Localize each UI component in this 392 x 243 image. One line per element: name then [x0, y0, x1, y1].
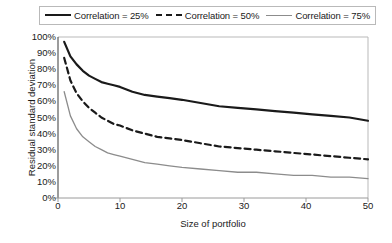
x-tick-label: 20: [167, 201, 197, 211]
x-tick-label: 10: [105, 201, 135, 211]
x-tick-label: 50: [353, 201, 383, 211]
x-axis-tick-labels: 01020304050: [0, 0, 392, 243]
x-axis-title: Size of portfolio: [58, 218, 368, 229]
x-tick-label: 30: [229, 201, 259, 211]
x-tick-label: 0: [43, 201, 73, 211]
residual-standard-deviation-chart: Correlation = 25% Correlation = 50% Corr…: [0, 0, 392, 243]
y-axis-title: Residual standard deviation: [26, 43, 37, 193]
x-tick-label: 40: [291, 201, 321, 211]
